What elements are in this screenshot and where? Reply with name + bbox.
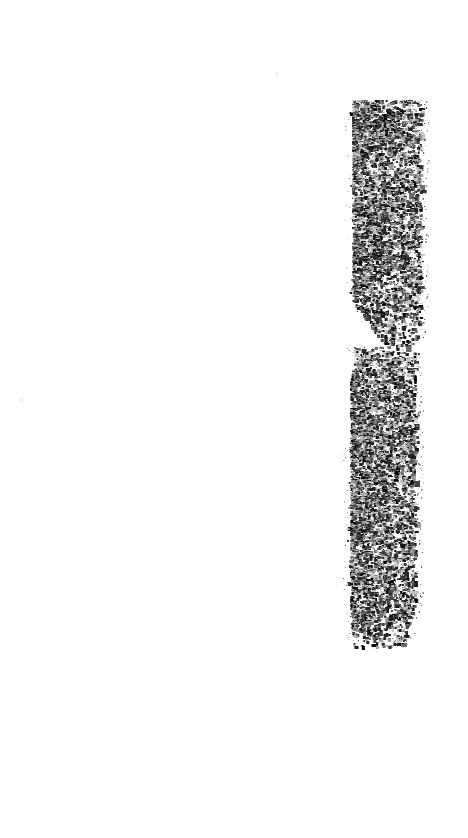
faint-speck-upper-mark [275, 72, 279, 77]
dark-fleck-mark [414, 375, 417, 384]
speckle-scan-band [0, 0, 468, 838]
scanned-page [0, 0, 468, 838]
faint-speck-left-mark [20, 398, 23, 402]
